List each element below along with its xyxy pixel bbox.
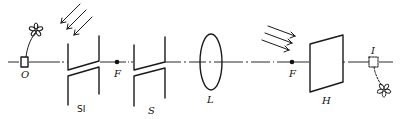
label-F2: F bbox=[288, 68, 297, 79]
slit-lower-plate bbox=[134, 68, 165, 106]
object-stem-icon bbox=[26, 33, 35, 57]
image-I: I bbox=[369, 45, 391, 97]
object-box-icon bbox=[21, 57, 28, 67]
object-O: O bbox=[21, 23, 43, 80]
focal-dot-icon bbox=[290, 60, 295, 65]
light-rays-right bbox=[262, 26, 295, 52]
flower-image-icon bbox=[377, 83, 391, 97]
light-rays-left bbox=[61, 4, 92, 35]
label-SI: SI bbox=[77, 104, 85, 114]
focal-point-F1: F bbox=[113, 60, 122, 79]
arrow-down-right-icon bbox=[265, 33, 292, 45]
plate-icon bbox=[310, 35, 343, 92]
label-O: O bbox=[21, 69, 29, 80]
label-L: L bbox=[206, 94, 214, 105]
diagram-canvas: O SI F bbox=[0, 0, 402, 119]
arrow-down-right-icon bbox=[268, 26, 295, 38]
image-box-icon bbox=[369, 57, 378, 67]
slit-upper-plate bbox=[68, 36, 99, 70]
label-I: I bbox=[370, 45, 376, 56]
label-F1: F bbox=[113, 68, 122, 79]
arrow-down-right-icon bbox=[262, 40, 289, 52]
flower-source-icon bbox=[29, 23, 43, 37]
screen-H: H bbox=[310, 35, 343, 106]
focal-dot-icon bbox=[115, 60, 120, 65]
slit-S: S bbox=[134, 37, 165, 116]
optical-diagram: O SI F bbox=[0, 0, 402, 119]
lens-L: L bbox=[200, 34, 222, 105]
label-H: H bbox=[321, 95, 331, 106]
slit-upper-plate bbox=[134, 37, 165, 70]
image-stem-icon bbox=[374, 67, 382, 86]
label-S: S bbox=[148, 105, 155, 116]
slit-lower-plate bbox=[68, 67, 99, 105]
slit-SI: SI bbox=[68, 36, 99, 114]
focal-point-F2: F bbox=[288, 60, 297, 79]
arrow-down-left-icon bbox=[61, 4, 80, 23]
